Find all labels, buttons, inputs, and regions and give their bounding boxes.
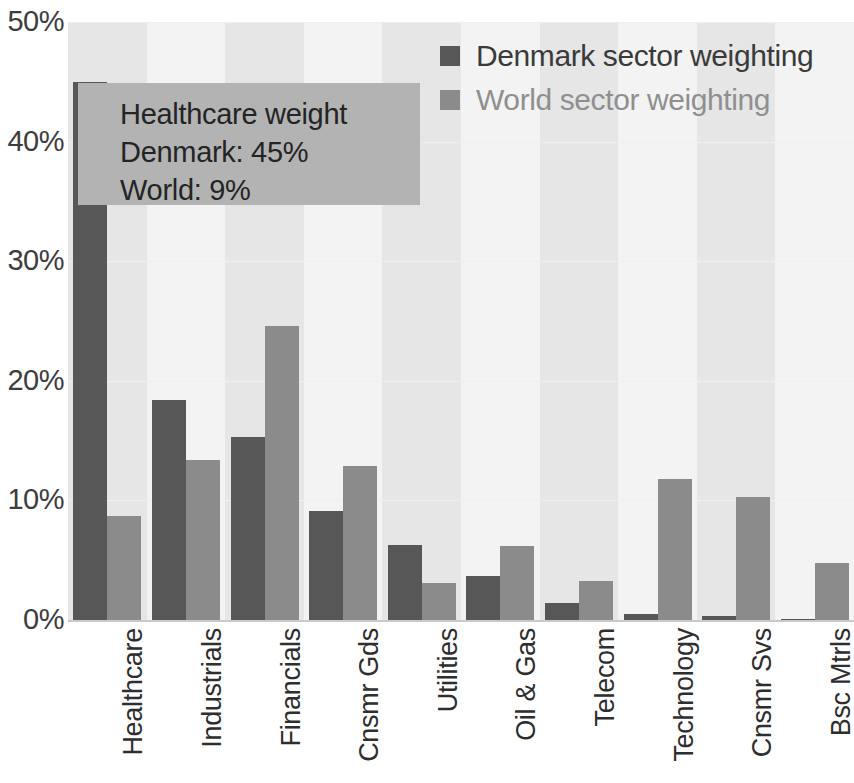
bar-world [107, 516, 141, 620]
legend-swatch-world-icon [440, 90, 460, 110]
x-axis-label-financials: Financials [276, 628, 307, 747]
bar-world [265, 326, 299, 620]
x-axis-label-technology: Technology [669, 628, 700, 762]
bar-world [422, 583, 456, 620]
y-axis-tick-label: 0% [0, 605, 64, 634]
x-axis-line [68, 620, 854, 622]
x-axis-label-cnsmr-gds: Cnsmr Gds [354, 628, 385, 762]
bar-world [500, 546, 534, 620]
annotation-box: Healthcare weight Denmark: 45% World: 9% [78, 83, 420, 205]
legend-label-denmark: Denmark sector weighting [476, 39, 813, 73]
bar-world [186, 460, 220, 620]
y-axis-tick-label: 40% [0, 127, 64, 156]
legend-label-world: World sector weighting [476, 83, 770, 117]
bar-chart: 0%10%20%30%40%50% HealthcareIndustrialsF… [0, 0, 854, 783]
annotation-line-title: Healthcare weight [120, 95, 420, 133]
bar-denmark [231, 437, 265, 620]
bar-world [736, 497, 770, 620]
gridline [68, 381, 854, 382]
gridline [68, 261, 854, 262]
y-axis-tick-label: 30% [0, 246, 64, 275]
bar-world [815, 563, 849, 620]
y-axis-tick-label: 10% [0, 485, 64, 514]
bar-denmark [388, 545, 422, 620]
x-axis-label-cnsmr-svs: Cnsmr Svs [747, 628, 778, 757]
legend-item-world: World sector weighting [440, 78, 813, 122]
x-axis-label-industrials: Industrials [197, 628, 228, 748]
y-axis-tick-label: 20% [0, 366, 64, 395]
bar-world [579, 581, 613, 620]
x-axis-label-oil-gas: Oil & Gas [511, 628, 542, 741]
x-axis-label-healthcare: Healthcare [118, 628, 149, 756]
y-axis-tick-label: 50% [0, 7, 64, 36]
bar-denmark [152, 400, 186, 620]
bar-denmark [466, 576, 500, 620]
bar-world [658, 479, 692, 620]
legend-swatch-denmark-icon [440, 46, 460, 66]
legend-item-denmark: Denmark sector weighting [440, 34, 813, 78]
bar-world [343, 466, 377, 620]
gridline [68, 22, 854, 23]
x-axis-label-telecom: Telecom [590, 628, 621, 726]
x-axis-label-bsc-mtrls: Bsc Mtrls [826, 628, 854, 736]
bar-denmark [545, 603, 579, 620]
annotation-line-world: World: 9% [120, 171, 420, 209]
annotation-line-denmark: Denmark: 45% [120, 133, 420, 171]
chart-legend: Denmark sector weighting World sector we… [440, 34, 813, 122]
x-axis-label-utilities: Utilities [433, 628, 464, 712]
bar-denmark [309, 511, 343, 620]
